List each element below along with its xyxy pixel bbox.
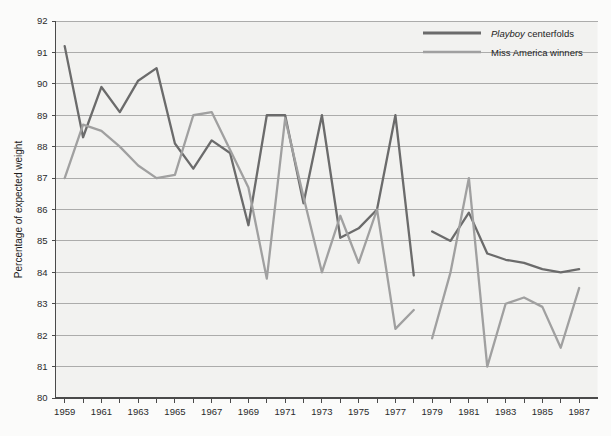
y-axis-tick-label: 83 bbox=[37, 298, 48, 309]
x-axis-tick-label: 1983 bbox=[495, 406, 516, 417]
x-axis-tick-label: 1975 bbox=[348, 406, 369, 417]
x-axis-tick-label: 1969 bbox=[238, 406, 259, 417]
y-axis-title: Percentage of expected weight bbox=[13, 141, 24, 279]
y-axis-tick-label: 80 bbox=[37, 392, 48, 403]
y-axis-tick-label: 81 bbox=[37, 361, 48, 372]
y-axis-tick-label: 84 bbox=[37, 267, 48, 278]
x-axis-tick-label: 1961 bbox=[91, 406, 112, 417]
y-axis-tick-label: 88 bbox=[37, 141, 48, 152]
x-axis-tick-label: 1971 bbox=[275, 406, 296, 417]
x-axis-tick-label: 1979 bbox=[422, 406, 443, 417]
x-axis-tick-label: 1981 bbox=[458, 406, 479, 417]
y-axis-tick-label: 82 bbox=[37, 330, 48, 341]
x-axis-tick-label: 1965 bbox=[164, 406, 185, 417]
y-axis-tick-label: 92 bbox=[37, 15, 48, 26]
x-axis-tick-label: 1959 bbox=[54, 406, 75, 417]
x-axis-tick-label: 1987 bbox=[569, 406, 590, 417]
y-axis-tick-label: 86 bbox=[37, 204, 48, 215]
y-axis-tick-label: 87 bbox=[37, 172, 48, 183]
x-axis-tick-label: 1977 bbox=[385, 406, 406, 417]
line-chart: 8081828384858687888990919219591961196319… bbox=[0, 0, 611, 436]
x-axis-tick-label: 1963 bbox=[128, 406, 149, 417]
legend-label: Miss America winners bbox=[491, 47, 583, 58]
x-axis-tick-label: 1967 bbox=[201, 406, 222, 417]
legend-label: Playboy centerfolds bbox=[491, 28, 574, 39]
x-axis-tick-label: 1973 bbox=[311, 406, 332, 417]
y-axis-tick-label: 90 bbox=[37, 78, 48, 89]
y-axis-tick-label: 91 bbox=[37, 47, 48, 58]
x-axis-tick-label: 1985 bbox=[532, 406, 553, 417]
chart-figure: 8081828384858687888990919219591961196319… bbox=[0, 0, 611, 436]
y-axis-tick-label: 89 bbox=[37, 110, 48, 121]
y-axis-tick-label: 85 bbox=[37, 235, 48, 246]
